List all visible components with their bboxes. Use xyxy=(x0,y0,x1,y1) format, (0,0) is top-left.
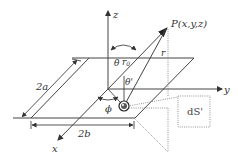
theta-label: θ xyxy=(114,58,120,68)
phi-label: ϕ xyxy=(105,103,112,114)
coordinate-axes xyxy=(58,11,222,140)
projection-lines xyxy=(128,29,210,152)
width-2b-label: 2b xyxy=(77,128,91,139)
y-axis-label: y xyxy=(223,84,230,95)
area-element-label: dS' xyxy=(187,106,203,117)
dimension-2a xyxy=(22,59,81,117)
r-vector xyxy=(124,29,166,106)
source-point xyxy=(119,101,129,111)
theta-prime-label: θ' xyxy=(125,77,133,87)
x-axis-label: x xyxy=(52,143,58,154)
z-axis-label: z xyxy=(112,9,119,20)
point-p-label: P(x,y,z) xyxy=(170,18,207,29)
theta-arc xyxy=(111,45,136,50)
diagram-canvas: z y x P(x,y,z) θ r0 r θ' ϕ 2a 2b dS' xyxy=(0,0,238,163)
phi-arc xyxy=(98,97,118,100)
width-2a-label: 2a xyxy=(35,81,48,92)
angle-arcs xyxy=(98,45,136,100)
diagram-svg: z y x P(x,y,z) θ r0 r θ' ϕ 2a 2b dS' xyxy=(0,0,238,163)
r-label: r xyxy=(161,48,166,58)
